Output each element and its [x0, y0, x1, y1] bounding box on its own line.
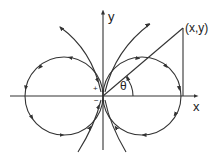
positive-pole-label: +: [93, 85, 98, 93]
point-label: (x,y): [185, 22, 208, 34]
radius-line: [103, 28, 183, 96]
dipole-diagram: y x (x,y) θ + −: [0, 0, 215, 158]
x-axis-label: x: [193, 100, 200, 113]
theta-arc: [126, 77, 133, 96]
y-axis-label: y: [108, 10, 115, 23]
negative-pole-label: −: [94, 97, 99, 105]
outer-arc-bottom-right: [105, 100, 126, 152]
outer-arc-top-left: [60, 27, 101, 92]
theta-label: θ: [120, 80, 127, 92]
outer-arc-top-right: [105, 24, 150, 92]
